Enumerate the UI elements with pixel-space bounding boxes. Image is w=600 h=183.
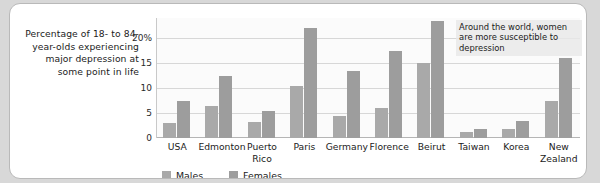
y-axis-tick-label: 0 <box>122 133 152 143</box>
bar-males[interactable] <box>502 129 515 138</box>
bar-females[interactable] <box>389 51 402 139</box>
bar-males[interactable] <box>290 86 303 139</box>
legend-label-males: Males <box>176 170 203 180</box>
chart-annotation: Around the world, women are more suscept… <box>456 20 582 56</box>
y-axis-tick-labels: 20%151050 <box>120 18 152 138</box>
bar-group <box>156 18 198 138</box>
chart-legend: Males Females <box>156 168 356 179</box>
legend-item-females[interactable]: Females <box>229 170 282 180</box>
x-axis-label: USA <box>156 141 198 153</box>
bar-males[interactable] <box>417 63 430 138</box>
bar-group <box>368 18 410 138</box>
bar-males[interactable] <box>163 123 176 138</box>
x-axis-label: Germany <box>326 141 368 153</box>
bar-group <box>198 18 240 138</box>
x-axis-label: Florence <box>368 141 410 153</box>
bar-females[interactable] <box>347 71 360 139</box>
x-axis-label: New Zealand <box>538 141 580 164</box>
bar-group <box>283 18 325 138</box>
bar-males[interactable] <box>545 101 558 139</box>
legend-item-males[interactable]: Males <box>162 170 203 180</box>
bar-females[interactable] <box>431 21 444 139</box>
bar-group <box>241 18 283 138</box>
legend-label-females: Females <box>243 170 282 180</box>
legend-swatch-males <box>162 171 171 180</box>
bar-group <box>410 18 452 138</box>
bar-males[interactable] <box>205 106 218 139</box>
x-axis-label: Edmonton <box>198 141 240 153</box>
bar-females[interactable] <box>262 111 275 139</box>
bar-females[interactable] <box>516 121 529 139</box>
bar-males[interactable] <box>375 108 388 138</box>
bar-group <box>326 18 368 138</box>
bar-females[interactable] <box>177 101 190 139</box>
bar-females[interactable] <box>219 76 232 139</box>
x-axis-label: Puerto Rico <box>241 141 283 164</box>
x-axis-label: Paris <box>283 141 325 153</box>
bar-females[interactable] <box>474 129 487 138</box>
bar-males[interactable] <box>333 116 346 139</box>
bar-males[interactable] <box>460 132 473 138</box>
bar-males[interactable] <box>248 122 261 138</box>
x-axis-category-labels: USAEdmontonPuerto RicoParisGermanyFloren… <box>156 141 580 167</box>
y-axis-tick-label: 15 <box>122 58 152 68</box>
bar-females[interactable] <box>304 28 317 138</box>
y-axis-tick-label: 20% <box>122 33 152 43</box>
y-axis-tick-label: 10 <box>122 83 152 93</box>
y-axis-tick-label: 5 <box>122 108 152 118</box>
x-axis-label: Beirut <box>410 141 452 153</box>
x-axis-label: Taiwan <box>453 141 495 153</box>
x-axis-label: Korea <box>495 141 537 153</box>
bar-females[interactable] <box>559 58 572 138</box>
legend-swatch-females <box>229 171 238 180</box>
chart-figure-frame: Percentage of 18- to 84-year-olds experi… <box>9 3 587 179</box>
